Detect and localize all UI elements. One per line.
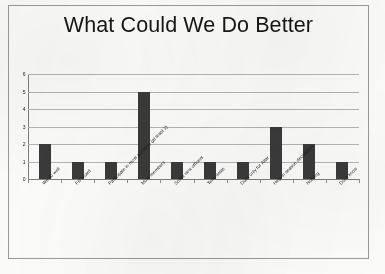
bar-slot [94, 74, 127, 179]
y-tick-label: 3 [23, 124, 26, 129]
x-tick [127, 179, 128, 183]
bar-slot [326, 74, 359, 179]
chart-title: What Could We Do Better [9, 13, 368, 38]
x-tick [359, 179, 360, 183]
x-axis-category-labels: We do wellFill BoardParticipate in most … [28, 183, 359, 263]
slide-frame: What Could We Do Better 0123456 We do we… [8, 5, 369, 259]
x-tick [28, 179, 29, 183]
x-tick [61, 179, 62, 183]
y-tick-label: 0 [23, 177, 26, 182]
x-tick [227, 179, 228, 183]
x-tick [94, 179, 95, 183]
bar [138, 92, 150, 180]
bar [270, 127, 282, 180]
y-tick-label: 1 [23, 159, 26, 164]
y-tick-label: 5 [23, 89, 26, 94]
scanned-page: What Could We Do Better 0123456 We do we… [0, 0, 385, 274]
x-tick [326, 179, 327, 183]
y-tick-label: 2 [23, 142, 26, 147]
bar-slot [28, 74, 61, 179]
bar-slot [227, 74, 260, 179]
bar-slot [61, 74, 94, 179]
y-tick-label: 6 [23, 72, 26, 77]
x-tick [293, 179, 294, 183]
x-tick [160, 179, 161, 183]
x-tick [260, 179, 261, 183]
y-tick-label: 4 [23, 107, 26, 112]
x-tick [194, 179, 195, 183]
